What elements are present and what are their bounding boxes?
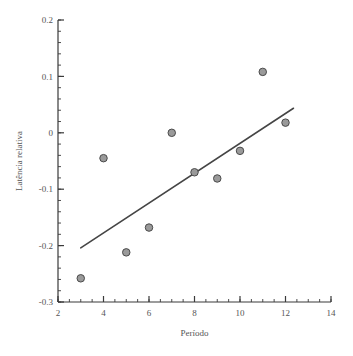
x-tick-label: 2 [56, 308, 61, 318]
data-point [145, 224, 153, 232]
x-axis-tick-labels: 2468101214 [56, 308, 336, 318]
y-tick-label: 0.2 [42, 15, 53, 25]
data-point [77, 275, 85, 283]
data-point-markers [77, 68, 289, 282]
y-axis-major-ticks [58, 20, 64, 302]
y-tick-label: -0.3 [39, 297, 54, 307]
y-tick-label: 0.1 [42, 72, 53, 82]
y-tick-label: -0.1 [39, 184, 53, 194]
x-tick-label: 10 [236, 308, 246, 318]
y-axis-title: Latência relativa [14, 131, 24, 191]
y-axis-tick-labels: -0.3-0.2-0.100.10.2 [39, 15, 54, 307]
x-axis-major-ticks [58, 296, 331, 302]
x-axis-title: Período [181, 328, 209, 338]
scatter-chart: -0.3-0.2-0.100.10.2 2468101214 Período L… [0, 0, 353, 356]
trend-line [81, 108, 294, 248]
data-point [168, 129, 176, 137]
trend-line-segment [81, 108, 294, 248]
y-tick-label: -0.2 [39, 241, 53, 251]
x-tick-label: 8 [192, 308, 197, 318]
x-tick-label: 4 [101, 308, 106, 318]
data-point [282, 119, 290, 127]
data-point [214, 175, 222, 183]
x-tick-label: 12 [281, 308, 290, 318]
data-point [191, 169, 199, 177]
data-point [236, 147, 244, 155]
y-tick-label: 0 [49, 128, 54, 138]
data-point [123, 249, 131, 256]
data-point [100, 154, 108, 162]
data-point [259, 68, 267, 76]
x-tick-label: 6 [147, 308, 152, 318]
axis-lines [58, 20, 331, 302]
plot-area: -0.3-0.2-0.100.10.2 2468101214 Período L… [0, 0, 353, 356]
x-tick-label: 14 [327, 308, 337, 318]
